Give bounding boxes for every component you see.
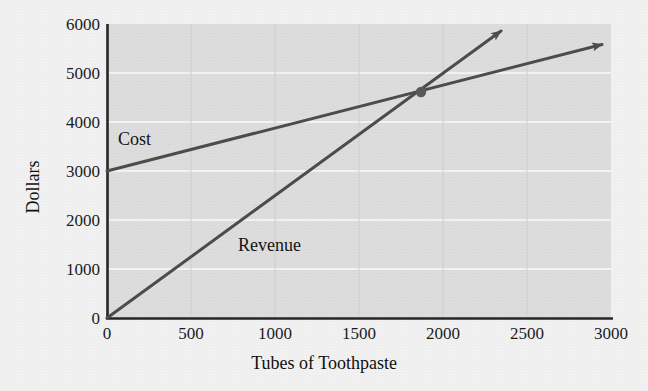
x-tick-label-1000: 1000: [258, 325, 292, 342]
x-tick-label-500: 500: [178, 325, 204, 342]
cost-series-label: Cost: [118, 130, 151, 148]
revenue-series-label: Revenue: [238, 236, 301, 254]
y-tick-label-1000: 1000: [40, 261, 100, 278]
x-axis-title: Tubes of Toothpaste: [0, 354, 648, 372]
x-tick-label-3000: 3000: [594, 325, 628, 342]
y-tick-label-2000: 2000: [40, 212, 100, 229]
x-tick-label-0: 0: [103, 325, 112, 342]
chart-canvas: [0, 0, 648, 391]
y-tick-label-6000: 6000: [40, 16, 100, 33]
x-tick-label-2000: 2000: [426, 325, 460, 342]
break-even-point-marker: [416, 87, 426, 97]
break-even-chart: 6000 5000 4000 3000 2000 1000 0 0 500 10…: [0, 0, 648, 391]
y-tick-label-5000: 5000: [40, 65, 100, 82]
y-axis-title: Dollars: [24, 132, 42, 242]
y-tick-label-0: 0: [40, 310, 100, 327]
y-tick-label-3000: 3000: [40, 163, 100, 180]
x-tick-label-2500: 2500: [510, 325, 544, 342]
y-tick-label-4000: 4000: [40, 114, 100, 131]
x-tick-label-1500: 1500: [342, 325, 376, 342]
